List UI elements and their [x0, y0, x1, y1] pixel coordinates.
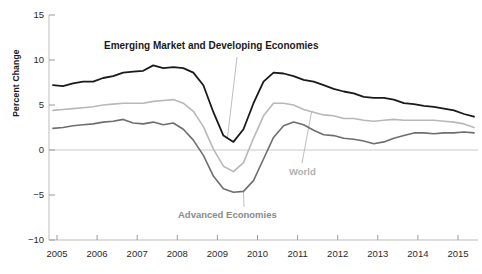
x-axis-tick-label: 2011 [281, 248, 315, 259]
y-axis-tick-label: 15 [18, 9, 44, 20]
x-axis-tick-label: 2005 [40, 248, 74, 259]
y-axis-tick-label: −5 [18, 189, 44, 200]
x-axis-tick-label: 2010 [241, 248, 275, 259]
y-axis-tick-label: 5 [18, 99, 44, 110]
annotation-leader-lines [227, 57, 311, 207]
y-axis-tick-label: −10 [18, 234, 44, 245]
chart-container: Percent Change 151050−5−10 2005200620072… [0, 0, 482, 274]
series-label-world: World [289, 166, 316, 177]
y-axis-tick-label: 10 [18, 54, 44, 65]
series-label-emerging-market-and-developing-economies: Emerging Market and Developing Economies [104, 40, 319, 51]
x-axis-tick-label: 2008 [160, 248, 194, 259]
series-label-advanced-economies: Advanced Economies [178, 209, 277, 220]
x-axis-tick-label: 2014 [401, 248, 435, 259]
x-axis-tick-label: 2013 [361, 248, 395, 259]
x-axis-tick-label: 2009 [200, 248, 234, 259]
y-axis-tick-label: 0 [18, 144, 44, 155]
x-axis-tick-label: 2012 [321, 248, 355, 259]
x-axis-tick-label: 2007 [120, 248, 154, 259]
x-axis-tick-marks [57, 235, 458, 240]
data-series-lines [53, 65, 474, 192]
x-axis-tick-label: 2006 [80, 248, 114, 259]
x-axis-tick-label: 2015 [441, 248, 475, 259]
